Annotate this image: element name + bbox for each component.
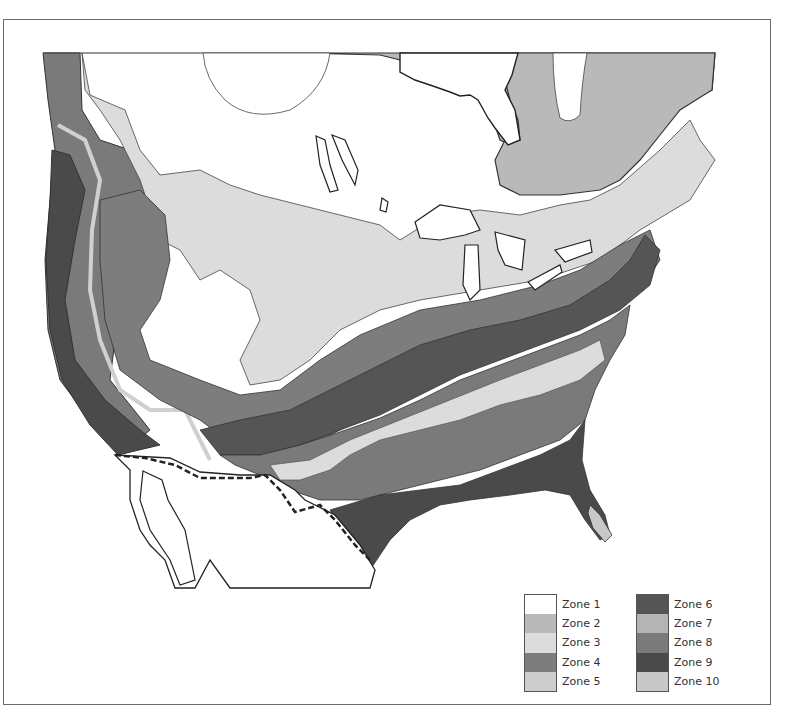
legend-label-zone-2: Zone 2: [562, 617, 601, 630]
swatch-zone-4: [525, 653, 556, 672]
legend-label-zone-9: Zone 9: [674, 656, 713, 669]
swatch-zone-6: [637, 595, 668, 614]
legend-label-zone-5: Zone 5: [562, 675, 601, 688]
legend: Zone 1 Zone 2 Zone 3 Zone 4 Zone 5 Zone …: [524, 594, 734, 694]
swatch-zone-1: [525, 595, 556, 614]
swatch-zone-8: [637, 633, 668, 652]
legend-label-zone-3: Zone 3: [562, 636, 601, 649]
swatch-zone-2: [525, 614, 556, 633]
swatch-zone-3: [525, 633, 556, 652]
swatch-zone-7: [637, 614, 668, 633]
legend-swatches: [524, 594, 557, 692]
legend-label-zone-6: Zone 6: [674, 598, 713, 611]
zone-1-region-north: [203, 53, 330, 114]
legend-swatches: [636, 594, 669, 692]
swatch-zone-9: [637, 653, 668, 672]
legend-label-zone-10: Zone 10: [674, 675, 720, 688]
legend-label-zone-4: Zone 4: [562, 656, 601, 669]
legend-label-zone-1: Zone 1: [562, 598, 601, 611]
swatch-zone-10: [637, 672, 668, 691]
legend-label-zone-7: Zone 7: [674, 617, 713, 630]
legend-label-zone-8: Zone 8: [674, 636, 713, 649]
hudson-bay: [400, 53, 520, 145]
swatch-zone-5: [525, 672, 556, 691]
canadian-lakes: [316, 135, 388, 212]
